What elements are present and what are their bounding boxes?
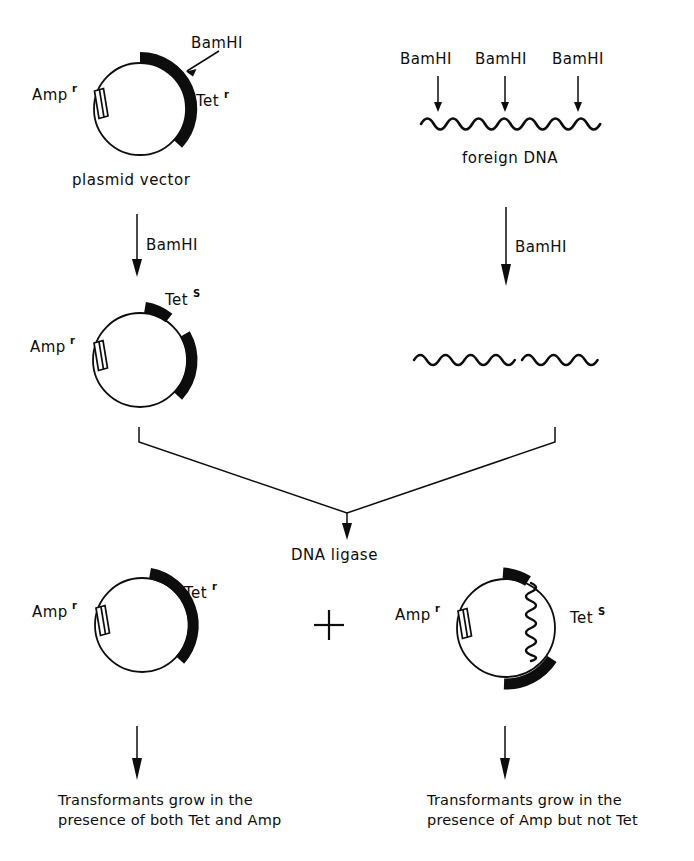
outcome-left-line1: Transformants grow in the	[57, 792, 253, 808]
plasmid-vector-caption: plasmid vector	[72, 171, 191, 189]
ligation-connector	[139, 427, 555, 540]
figure-canvas: BamHI Amp r Tet r plasmid vector BamHI B…	[0, 0, 694, 861]
bamhi-arrow-r3	[574, 76, 582, 112]
amp-label-2: Amp	[30, 338, 66, 356]
tet-superscript-3: r	[212, 581, 217, 592]
tet-label-3: Tet	[183, 584, 207, 602]
tet-superscript-1: r	[224, 89, 229, 100]
recombinant-plasmid-group: Amp r Tet S	[395, 573, 605, 684]
tet-label-2: Tet	[164, 291, 188, 309]
plus-operator	[314, 610, 344, 640]
tet-fragment-upper	[145, 308, 169, 319]
tet-label-1: Tet	[195, 92, 219, 110]
dna-fragments-group	[414, 355, 598, 365]
dna-fragment-1	[414, 355, 515, 365]
tet-label-4: Tet	[569, 609, 593, 627]
amp-superscript-3: r	[72, 600, 77, 611]
amp-superscript-4: r	[435, 603, 440, 614]
bamhi-arrow-r2	[501, 76, 509, 112]
foreign-dna-group: BamHI BamHI BamHI foreign DNA	[400, 50, 604, 167]
bamhi-label-r3: BamHI	[552, 50, 604, 68]
bamhi-site-label: BamHI	[191, 34, 243, 52]
bamhi-arrow-r1	[434, 76, 442, 112]
dna-fragment-2	[522, 355, 598, 365]
tet-superscript-2: S	[193, 288, 200, 299]
amp-superscript-1: r	[72, 83, 77, 94]
foreign-dna-strand	[421, 119, 600, 130]
cut-plasmid-backbone-circle	[93, 313, 187, 407]
religated-plasmid-group: Amp r Tet r	[32, 574, 217, 673]
recombinant-backbone-circle	[457, 579, 555, 677]
amp-label-3: Amp	[32, 603, 68, 621]
outcome-right-line2: presence of Amp but not Tet	[427, 812, 638, 828]
digest-arrow-left-label: BamHI	[146, 236, 198, 254]
bamhi-site-arrow	[186, 51, 219, 77]
inserted-foreign-dna	[526, 583, 536, 661]
cut-plasmid-group: Amp r Tet S	[30, 288, 200, 407]
tet-superscript-4: S	[598, 606, 605, 617]
cloning-diagram: BamHI Amp r Tet r plasmid vector BamHI B…	[0, 0, 694, 861]
digest-arrow-right	[501, 207, 511, 286]
outcome-arrow-left	[132, 726, 142, 780]
amp-label-4: Amp	[395, 606, 431, 624]
outcome-right-line1: Transformants grow in the	[426, 792, 622, 808]
digest-arrow-right-label: BamHI	[515, 238, 567, 256]
plasmid-backbone-circle	[94, 63, 186, 155]
tet-fragment-lower	[178, 334, 192, 396]
outcome-left-line2: presence of both Tet and Amp	[58, 812, 281, 828]
outcome-arrow-right	[500, 726, 510, 780]
digest-arrow-left	[132, 214, 142, 277]
amp-superscript-2: r	[70, 335, 75, 346]
bamhi-label-r2: BamHI	[475, 50, 527, 68]
amp-label-1: Amp	[32, 86, 68, 104]
foreign-dna-caption: foreign DNA	[462, 149, 558, 167]
tet-resistance-arc	[140, 57, 192, 144]
bamhi-label-r1: BamHI	[400, 50, 452, 68]
plasmid-vector-group: BamHI Amp r Tet r plasmid vector	[32, 34, 243, 189]
dna-ligase-label: DNA ligase	[291, 546, 378, 564]
